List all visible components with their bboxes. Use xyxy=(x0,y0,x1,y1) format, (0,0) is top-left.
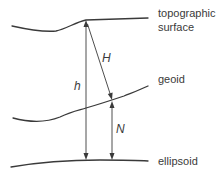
h-arrow xyxy=(84,20,89,160)
topographic-surface-label-line1: topographic xyxy=(158,7,216,19)
N-arrowhead-up xyxy=(110,101,115,108)
ellipsoid-line xyxy=(11,160,148,167)
geodetic-heights-diagram: h H N topographic surface geoid ellipsoi… xyxy=(0,0,221,190)
N-arrowhead-down xyxy=(110,153,115,160)
topographic-surface-line xyxy=(12,18,148,31)
N-arrow xyxy=(110,101,115,160)
h-arrowhead-down xyxy=(84,153,89,160)
h-label: h xyxy=(74,79,81,93)
topographic-surface-label-line2: surface xyxy=(158,21,194,33)
geoid-label: geoid xyxy=(158,73,185,85)
ellipsoid-label: ellipsoid xyxy=(158,155,198,167)
H-label: H xyxy=(102,51,111,65)
H-arrowhead xyxy=(108,93,113,101)
N-label: N xyxy=(116,122,125,136)
